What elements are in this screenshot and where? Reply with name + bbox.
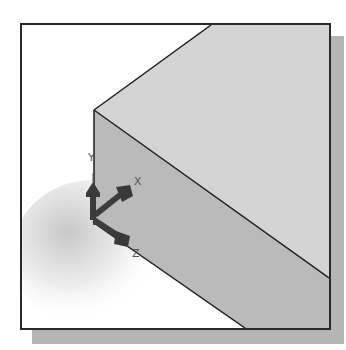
z-axis-label: Z xyxy=(132,247,140,260)
x-axis-label: X xyxy=(134,175,142,188)
model-viewport: Y X Z xyxy=(20,23,331,330)
y-axis-label: Y xyxy=(87,151,95,164)
block-drawing: Y X Z xyxy=(22,25,329,328)
